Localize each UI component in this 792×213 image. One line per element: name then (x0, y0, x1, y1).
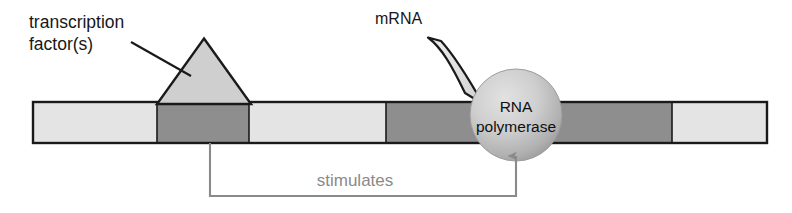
transcription-regulation-diagram: transcription factor(s) mRNA RNA polymer… (0, 0, 792, 213)
dna-segment-light-3 (672, 102, 767, 143)
rna-polymerase-label-line2: polymerase (476, 118, 556, 135)
dna-segment-light-2 (249, 102, 386, 143)
rna-polymerase-label-line1: RNA (500, 98, 533, 115)
stimulates-label: stimulates (317, 171, 394, 190)
dna-bar (33, 102, 767, 143)
transcription-factor-label-line2: factor(s) (29, 34, 93, 54)
dna-segment-dark-1 (157, 102, 249, 143)
transcription-factor-triangle (157, 39, 251, 105)
mrna-label: mRNA (375, 10, 422, 27)
transcription-factor-label-line1: transcription (29, 12, 124, 32)
diagram-canvas: transcription factor(s) mRNA RNA polymer… (0, 0, 792, 213)
transcription-factor-leader-line (131, 42, 191, 76)
rna-polymerase-circle (470, 69, 562, 161)
dna-segment-light-1 (33, 102, 157, 143)
